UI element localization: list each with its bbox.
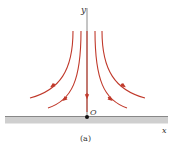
streamlines: [30, 31, 145, 112]
origin-label: O: [90, 108, 97, 117]
streamline-outer-left: [30, 31, 73, 98]
figure-caption: (a): [80, 134, 91, 143]
x-axis-label: x: [162, 126, 167, 135]
stagnation-flow-diagram: y O x (a): [0, 0, 177, 153]
streamline-outer-right: [102, 31, 145, 98]
streamline-inner-right: [95, 31, 127, 108]
y-axis-label: y: [80, 5, 87, 15]
streamline-inner-left: [48, 31, 81, 108]
origin-point: [85, 115, 89, 119]
